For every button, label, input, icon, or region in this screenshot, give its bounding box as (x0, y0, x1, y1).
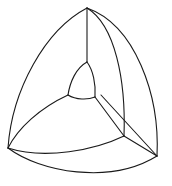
outer-bottom-arc (8, 148, 157, 173)
cap-to-corner-line (95, 97, 124, 136)
cap-left-arc (68, 62, 87, 95)
inner-bottom-arc (8, 136, 124, 153)
corner-to-right-edge (124, 136, 157, 156)
diagram-canvas (0, 0, 172, 186)
reuleaux-tetrahedron-drawing (0, 0, 172, 186)
cap-to-right-line (101, 95, 157, 156)
cap-bottom-arc (68, 95, 95, 99)
outer-left-arc (8, 8, 87, 148)
cap-right-arc (87, 62, 95, 97)
